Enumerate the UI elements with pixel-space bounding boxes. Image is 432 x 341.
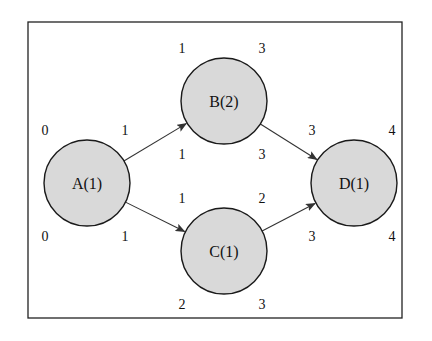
diagram-canvas: A(1)0101B(2)1313C(1)1223D(1)3434 (0, 0, 432, 341)
edge-a-to-b (124, 124, 186, 161)
late-start: 3 (309, 229, 316, 244)
node-label: D(1) (339, 175, 369, 193)
late-finish: 1 (122, 229, 129, 244)
late-finish: 4 (389, 229, 396, 244)
edge-c-to-d (262, 203, 315, 231)
late-finish: 3 (259, 147, 266, 162)
node-label: C(1) (209, 243, 238, 261)
nodes-group: A(1)0101B(2)1313C(1)1223D(1)3434 (42, 41, 398, 312)
early-finish: 2 (259, 191, 266, 206)
early-start: 1 (179, 191, 186, 206)
node-label: A(1) (72, 175, 102, 193)
late-start: 0 (42, 229, 49, 244)
early-finish: 4 (389, 123, 396, 138)
node-b: B(2)1313 (179, 41, 268, 162)
early-finish: 1 (122, 123, 129, 138)
early-start: 0 (42, 123, 49, 138)
edge-a-to-c (126, 202, 185, 231)
early-start: 1 (179, 41, 186, 56)
late-finish: 3 (259, 297, 266, 312)
node-c: C(1)1223 (179, 191, 268, 312)
early-start: 3 (309, 123, 316, 138)
node-d: D(1)3434 (309, 123, 398, 244)
node-label: B(2) (209, 93, 238, 111)
node-a: A(1)0101 (42, 123, 131, 244)
late-start: 1 (179, 147, 186, 162)
late-start: 2 (179, 297, 186, 312)
early-finish: 3 (259, 41, 266, 56)
